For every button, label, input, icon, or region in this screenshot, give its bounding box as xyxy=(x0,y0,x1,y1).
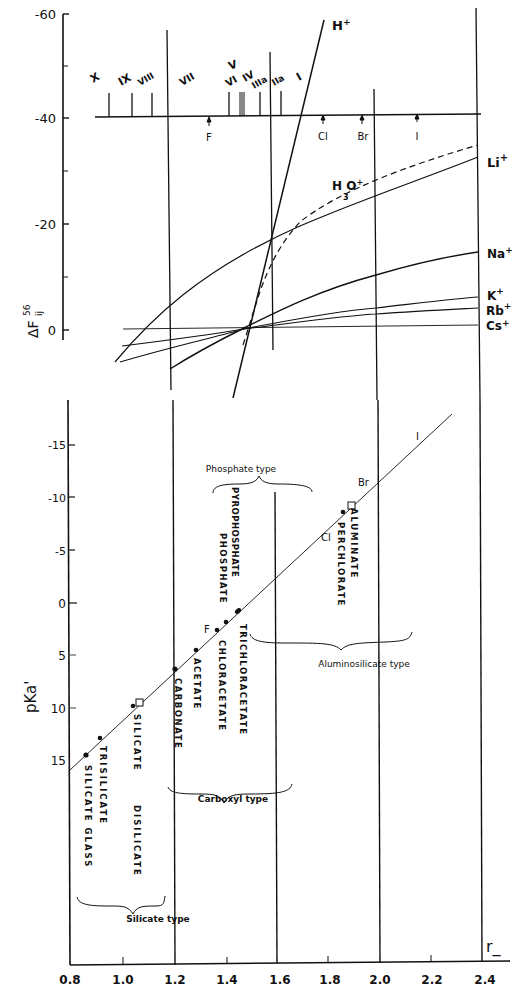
chart-figure: -60 -40 -20 0 ΔF 56 ij X IX VIII VII VI … xyxy=(0,0,529,987)
compound-pyrophosphate: PYROPHOSPHATE xyxy=(230,487,240,577)
x-tick-6: 2.0 xyxy=(369,973,390,987)
x-tick-3: 1.4 xyxy=(216,973,237,987)
y-tick-lower-2: -5 xyxy=(55,545,66,558)
anion-cl-upper: Cl xyxy=(318,131,328,142)
compound-acetate: ACETATE xyxy=(192,658,202,710)
ylabel-upper-sub: ij xyxy=(34,311,44,316)
roman-vii: VII xyxy=(178,71,197,88)
x-tick-4: 1.6 xyxy=(269,973,290,987)
x-tick-labels: 0.8 1.0 1.2 1.4 1.6 1.8 2.0 2.2 2.4 xyxy=(59,973,495,987)
roman-i: I xyxy=(294,70,304,83)
roman-ix: IX xyxy=(116,71,134,89)
x-tick-1: 1.0 xyxy=(112,973,133,987)
compound-disilicate: DISILICATE xyxy=(132,805,142,877)
compound-phosphate: PHOSPHATE xyxy=(218,533,228,604)
upper-panel xyxy=(63,8,481,400)
anion-br-upper: Br xyxy=(358,131,370,142)
roman-viii: VIII xyxy=(136,71,156,88)
compound-trichloracetate: TRICHLORACETATE xyxy=(238,624,248,736)
y-tick-lower-6: 15 xyxy=(51,754,66,768)
group-aluminosilicate-type: Aluminosilicate type xyxy=(318,659,410,669)
y-tick-lower-4: 5 xyxy=(58,649,66,663)
roman-vi: VI xyxy=(224,73,239,88)
x-tick-0: 0.8 xyxy=(59,973,80,987)
roman-x: X xyxy=(88,70,102,86)
roman-labels: X IX VIII VII VI V IV IIIa IIa I xyxy=(88,58,304,91)
group-phosphate-type: Phosphate type xyxy=(206,464,277,474)
compound-aluminate: ALUMINATE xyxy=(349,508,359,579)
compound-trisilicate: TRISILICATE xyxy=(98,746,108,825)
compound-perchlorate: PERCHLORATE xyxy=(336,522,346,607)
x-tick-8: 2.4 xyxy=(474,973,495,987)
ylabel-lower: pKa' xyxy=(22,681,40,713)
y-tick-lower-3: 0 xyxy=(58,597,66,611)
lower-panel xyxy=(68,400,510,965)
legend-h: H+ xyxy=(332,17,350,33)
x-axis-label: r_ xyxy=(486,937,502,957)
legend-cs: Cs+ xyxy=(486,318,510,333)
group-labels: Phosphate type Aluminosilicate type Carb… xyxy=(126,464,410,924)
ylabel-upper-sup: 56 xyxy=(22,304,32,316)
lower-tick-labels: -15 -10 -5 0 5 10 15 xyxy=(48,439,66,768)
anion-labels-upper: F Cl Br I xyxy=(206,131,418,143)
cation-labels: H+ Li+ H O+ 3 Na+ K+ Rb+ Cs+ xyxy=(332,17,513,333)
anion-i-lower: I xyxy=(416,431,419,442)
legend-k: K+ xyxy=(487,286,504,303)
legend-h3o: H O+ xyxy=(332,178,363,193)
legend-rb: Rb+ xyxy=(486,301,511,318)
y-tick-lower-0: -15 xyxy=(48,439,66,452)
group-carboxyl-type: Carboxyl type xyxy=(198,794,268,804)
anion-f-lower: F xyxy=(204,624,210,635)
y-tick-upper-3: 0 xyxy=(48,323,56,338)
y-tick-lower-5: 10 xyxy=(51,702,66,716)
x-tick-7: 2.2 xyxy=(421,973,442,987)
compound-chloracetate: CHLORACETATE xyxy=(217,640,227,732)
ylabel-upper-main: ΔF xyxy=(25,320,41,338)
roman-iia: IIa xyxy=(270,73,286,88)
compound-carbonate: CARBONATE xyxy=(173,678,183,749)
anion-f-upper: F xyxy=(206,132,212,143)
group-silicate-type: Silicate type xyxy=(126,914,189,924)
legend-na: Na+ xyxy=(487,245,513,261)
anion-cl-lower: Cl xyxy=(321,532,331,543)
legend-li: Li+ xyxy=(487,152,508,170)
compound-silicate: SILICATE xyxy=(132,714,142,772)
roman-v: V xyxy=(227,58,240,73)
upper-tick-labels: -60 -40 -20 0 xyxy=(35,7,56,338)
x-tick-2: 1.2 xyxy=(164,973,185,987)
legend-h3o-sub: 3 xyxy=(343,193,349,202)
compound-labels: SILICATE GLASS TRISILICATE SILICATE DISI… xyxy=(83,487,359,877)
anion-i-upper: I xyxy=(416,131,419,142)
compound-silicate-glass: SILICATE GLASS xyxy=(83,765,93,868)
y-tick-upper-0: -60 xyxy=(35,7,56,22)
anion-br-lower: Br xyxy=(358,477,370,488)
y-tick-upper-1: -40 xyxy=(35,111,56,126)
y-tick-lower-1: -10 xyxy=(48,492,66,505)
x-tick-5: 1.8 xyxy=(319,973,340,987)
y-tick-upper-2: -20 xyxy=(35,217,56,232)
upper-ylabel: ΔF 56 ij xyxy=(22,304,44,338)
